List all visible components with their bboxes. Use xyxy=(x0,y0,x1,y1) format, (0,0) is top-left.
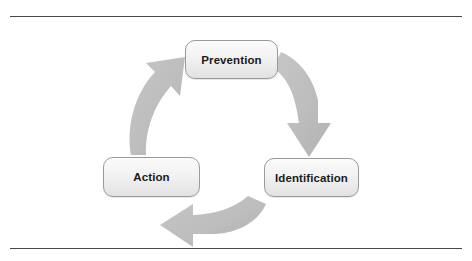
curved-arrow-up-icon xyxy=(130,57,185,155)
node-action[interactable]: Action xyxy=(103,157,200,197)
node-identification-label: Identification xyxy=(275,172,348,184)
node-prevention[interactable]: Prevention xyxy=(185,40,278,79)
cycle-diagram: Prevention Identification Action xyxy=(0,16,472,248)
curved-arrow-left-icon xyxy=(160,196,266,247)
curved-arrow-down-icon xyxy=(273,52,331,157)
node-identification[interactable]: Identification xyxy=(264,158,359,197)
figure-page: Prevention Identification Action xyxy=(0,0,472,261)
bottom-divider-rule xyxy=(10,248,462,249)
node-action-label: Action xyxy=(133,171,169,183)
node-prevention-label: Prevention xyxy=(201,54,261,66)
